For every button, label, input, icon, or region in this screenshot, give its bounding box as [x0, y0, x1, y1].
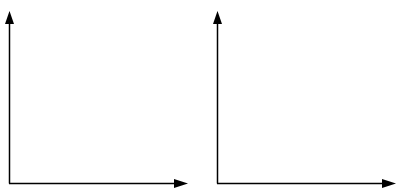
- left-x-axis-arrow-icon: [174, 179, 188, 188]
- axes-diagram: [0, 0, 404, 193]
- right-y-axis-arrow-icon: [213, 11, 222, 24]
- left-axes: [5, 11, 188, 188]
- right-axes: [213, 11, 396, 188]
- right-x-axis-arrow-icon: [382, 179, 396, 188]
- left-y-axis-arrow-icon: [5, 11, 14, 24]
